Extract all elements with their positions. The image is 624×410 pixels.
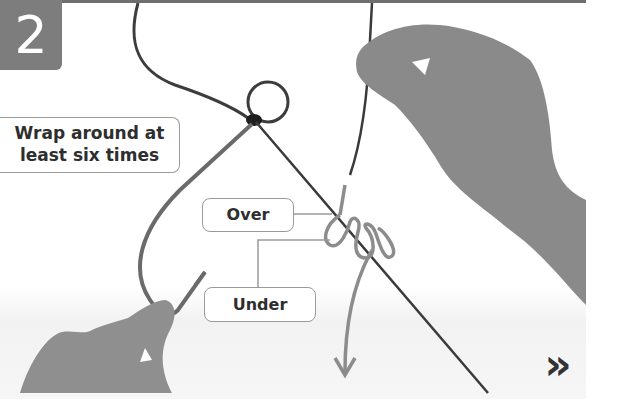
under-label: Under <box>204 287 316 322</box>
wrap-instruction-callout: Wrap around at least six times <box>0 117 180 173</box>
coil-wraps-icon <box>326 215 394 258</box>
wrap-instruction-line2: least six times <box>0 144 179 166</box>
under-leader-line <box>258 240 330 287</box>
tag-end-line <box>340 185 345 215</box>
hook-barb <box>195 272 205 285</box>
left-hand-icon <box>20 300 175 393</box>
fishing-line-left <box>134 3 248 118</box>
right-hand-icon <box>356 24 586 305</box>
fishing-line-right <box>350 3 372 175</box>
double-chevron-right-icon[interactable]: » <box>537 345 579 385</box>
knot-icon <box>246 114 262 126</box>
direction-arrow <box>345 250 372 372</box>
step-number-badge: 2 <box>0 0 62 70</box>
over-label: Over <box>202 198 294 232</box>
wrap-instruction-line1: Wrap around at <box>0 122 179 144</box>
knot-illustration <box>0 0 624 410</box>
